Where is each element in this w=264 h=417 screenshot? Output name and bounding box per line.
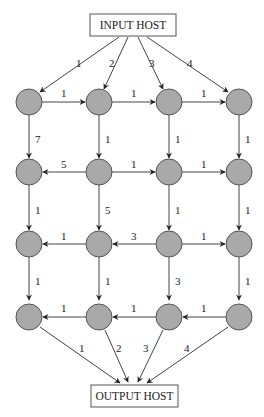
weight-label: 3 — [149, 57, 155, 69]
weight-label: 4 — [184, 342, 190, 354]
node-r3c2 — [86, 231, 112, 257]
weight-label: 1 — [175, 204, 181, 216]
input-edges: 1 2 3 4 — [40, 37, 228, 92]
weight-label: 1 — [35, 275, 41, 287]
output-edges: 1 2 3 4 — [40, 327, 228, 383]
weight-label: 1 — [201, 87, 207, 99]
weight-label: 1 — [61, 302, 67, 314]
down2-edges: 1 5 1 1 — [29, 185, 251, 230]
weight-label: 4 — [187, 57, 193, 69]
node-r4c1 — [16, 304, 42, 330]
node-r2c1 — [16, 159, 42, 185]
node-r2c3 — [156, 159, 182, 185]
down1-edges: 7 1 1 1 — [29, 115, 251, 158]
weight-label: 1 — [245, 133, 251, 145]
row1-edges: 1 1 1 — [42, 87, 225, 102]
weight-label: 1 — [61, 230, 67, 242]
weight-label: 1 — [76, 57, 82, 69]
weight-label: 1 — [79, 342, 85, 354]
weight-label: 1 — [245, 275, 251, 287]
weight-label: 1 — [201, 230, 207, 242]
weight-label: 2 — [109, 57, 115, 69]
weight-label: 1 — [61, 87, 67, 99]
row2-edges: 5 1 1 — [43, 158, 225, 172]
weight-label: 1 — [131, 158, 137, 170]
row3-edges: 1 3 1 — [43, 230, 225, 244]
node-r4c3 — [156, 304, 182, 330]
node-r3c4 — [226, 231, 252, 257]
node-r1c3 — [156, 89, 182, 115]
input-host: INPUT HOST — [90, 14, 176, 36]
weight-label: 7 — [35, 133, 41, 145]
weight-label: 1 — [105, 133, 111, 145]
weight-label: 1 — [245, 204, 251, 216]
node-r3c3 — [156, 231, 182, 257]
weight-label: 1 — [175, 133, 181, 145]
node-r2c4 — [226, 159, 252, 185]
weight-label: 1 — [131, 87, 137, 99]
weight-label: 5 — [61, 158, 67, 170]
row4-edges: 1 1 1 — [43, 302, 226, 317]
weight-label: 1 — [35, 204, 41, 216]
weight-label: 3 — [131, 230, 137, 242]
weight-label: 5 — [105, 204, 111, 216]
output-host: OUTPUT HOST — [91, 385, 178, 407]
weight-label: 3 — [143, 342, 149, 354]
node-r3c1 — [16, 231, 42, 257]
weight-label: 1 — [131, 302, 137, 314]
down3-edges: 1 1 3 1 — [29, 257, 251, 300]
network-diagram: INPUT HOST OUTPUT HOST 1 2 3 4 1 1 1 7 1… — [0, 0, 264, 417]
node-r2c2 — [86, 159, 112, 185]
weight-label: 2 — [116, 342, 122, 354]
node-r4c4 — [226, 304, 252, 330]
node-r1c1 — [16, 89, 42, 115]
weight-label: 1 — [201, 302, 207, 314]
node-r1c4 — [226, 89, 252, 115]
node-r4c2 — [86, 304, 112, 330]
input-host-label: INPUT HOST — [100, 19, 167, 31]
weight-label: 3 — [175, 275, 181, 287]
weight-label: 1 — [105, 275, 111, 287]
weight-label: 1 — [201, 158, 207, 170]
nodes — [16, 89, 252, 330]
node-r1c2 — [86, 89, 112, 115]
output-host-label: OUTPUT HOST — [95, 390, 173, 402]
